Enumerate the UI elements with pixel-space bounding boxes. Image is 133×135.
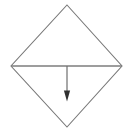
diamond-arrow-diagram <box>0 0 133 135</box>
figure-canvas <box>0 0 133 135</box>
